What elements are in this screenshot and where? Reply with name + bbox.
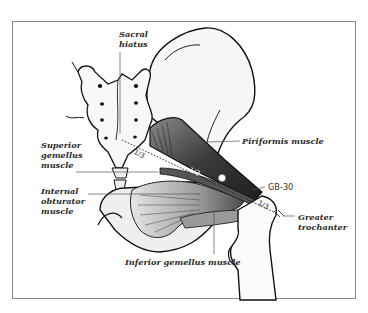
gb30-point-marker (218, 174, 225, 181)
label-sacral-hiatus: Sacral hiatus (119, 29, 148, 49)
label-superior-gemellus: Superior gemellus muscle (41, 140, 83, 170)
label-internal-obturator-line1: Internal (41, 186, 85, 196)
label-gb30: GB-30 (268, 182, 293, 192)
label-greater-trochanter: Greater trochanter (298, 212, 347, 232)
label-internal-obturator-line2: obturator (41, 196, 85, 206)
coccyx-bone (112, 168, 128, 190)
label-sacral-hiatus-line2: hiatus (119, 39, 148, 49)
label-greater-trochanter-line1: Greater (298, 212, 347, 222)
label-sacral-hiatus-line1: Sacral (119, 29, 148, 39)
label-greater-trochanter-line2: trochanter (298, 222, 347, 232)
label-piriformis: Piriformis muscle (242, 136, 324, 146)
label-internal-obturator-line3: muscle (41, 206, 85, 216)
label-superior-gemellus-line2: gemellus (41, 150, 83, 160)
label-inferior-gemellus: Inferior gemellus muscle (125, 257, 241, 267)
label-superior-gemellus-line3: muscle (41, 160, 83, 170)
label-superior-gemellus-line1: Superior (41, 140, 83, 150)
label-internal-obturator: Internal obturator muscle (41, 186, 85, 216)
